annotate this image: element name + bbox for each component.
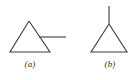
figure-diagram: (a) (b): [0, 0, 140, 80]
panel-b-triangle: [91, 24, 127, 52]
panel-a-label: (a): [14, 59, 46, 69]
panel-a-group: [10, 21, 66, 52]
panel-b-group: [91, 6, 127, 52]
panel-b-label: (b): [94, 59, 126, 69]
